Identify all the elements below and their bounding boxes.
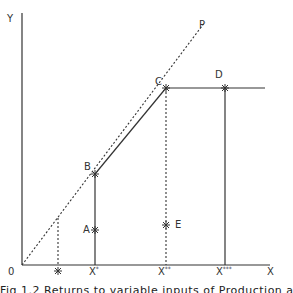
point-label-d: D [215,70,223,80]
marker-a-icon [91,226,99,234]
tick-label-x-dstar: X** [158,267,171,277]
figure-caption: Fig 1.2 Returns to variable inputs of Pr… [0,284,293,293]
segment-bc [95,88,166,174]
marker-b-icon [91,170,99,178]
y-axis-label: Y [7,14,13,24]
x-axis-label: X [267,267,274,277]
tick-label-x-star: X* [89,267,99,277]
point-label-e: E [175,220,181,230]
marker-e-icon [162,221,170,229]
production-diagram [0,0,293,293]
point-label-c: C [155,77,162,87]
marker-c-icon [162,84,170,92]
point-label-b: B [84,162,91,172]
point-label-a: A [83,225,90,235]
origin-label: 0 [8,267,14,277]
ray-label-p: P [199,20,205,30]
tick-label-x-tstar: X*** [216,267,232,277]
marker-small-icon [54,267,62,275]
marker-d-icon [221,84,229,92]
